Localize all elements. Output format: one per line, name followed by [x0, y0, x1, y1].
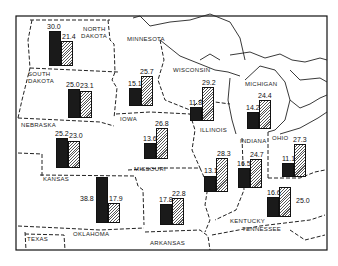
- value-ia-hatched: 26.8: [155, 120, 169, 128]
- value-ne-solid: 25.2: [55, 130, 69, 138]
- label-kansas: KANSAS: [43, 176, 69, 183]
- label-arkansas: ARKANSAS: [150, 240, 185, 247]
- label-michigan: MICHIGAN: [245, 81, 277, 88]
- value-sd-solid: 25.0: [66, 81, 80, 89]
- label-south-dakota: SOUTH: [28, 71, 51, 78]
- value-ok-hatched: 17.9: [109, 195, 123, 203]
- bar-sd-hatched: [80, 91, 92, 118]
- label-oklahoma: OKLAHOMA: [73, 231, 109, 238]
- value-mi-hatched: 24.4: [258, 92, 272, 100]
- label-kentucky: KENTUCKY: [230, 218, 265, 225]
- value-il-hatched: 28.3: [217, 150, 231, 158]
- label-iowa: IOWA: [120, 116, 137, 123]
- label-south-dakota-2: DAKOTA: [28, 78, 54, 85]
- label-north-dakota-2: DAKOTA: [81, 33, 107, 40]
- label-texas: TEXAS: [27, 236, 48, 243]
- label-indiana: INDIANA: [240, 138, 266, 145]
- value-ia-solid: 13.6: [143, 135, 157, 143]
- map: NORTH DAKOTA MINNESOTA SOUTH DAKOTA NEBR…: [0, 0, 338, 266]
- value-ky-solid: 16.6: [267, 189, 281, 197]
- bar-ne-hatched: [68, 141, 80, 168]
- bar-in-solid: [238, 168, 250, 188]
- label-missouri: MISSOURI: [134, 166, 166, 173]
- bar-ia-solid: [144, 143, 156, 159]
- value-mn-hatched: 25.7: [140, 68, 154, 76]
- value-sd-hatched: 23.1: [80, 82, 94, 90]
- value-nd-hatched: 21.4: [62, 33, 76, 41]
- bar-nd-hatched: [61, 41, 73, 66]
- bar-ne-solid: [56, 138, 68, 168]
- bar-nd-solid: [49, 31, 61, 66]
- label-minnesota: MINNESOTA: [127, 36, 165, 43]
- bar-mo-solid: [160, 204, 172, 225]
- bar-mn-solid: [129, 88, 141, 106]
- value-mn-solid: 15.1: [128, 80, 142, 88]
- bar-oh-hatched: [294, 144, 306, 177]
- bar-wi-hatched: [202, 87, 214, 121]
- bar-wi-solid: [190, 107, 202, 121]
- value-nd-solid: 30.0: [47, 23, 61, 31]
- bar-ia-hatched: [156, 128, 168, 159]
- bar-in-hatched: [250, 159, 262, 188]
- label-illinois: ILLINOIS: [200, 127, 227, 134]
- label-north-dakota: NORTH: [83, 26, 106, 33]
- value-in-solid: 16.5: [237, 160, 251, 168]
- bar-ok-hatched: [108, 203, 120, 223]
- value-mo-solid: 17.8: [159, 196, 173, 204]
- value-in-hatched: 24.7: [250, 151, 264, 159]
- bar-oh-solid: [282, 163, 294, 177]
- label-wisconsin: WISCONSIN: [173, 67, 210, 74]
- label-tennessee: TENNESSEE: [242, 226, 281, 233]
- label-ohio: OHIO: [272, 135, 289, 142]
- bar-mn-hatched: [141, 76, 153, 106]
- bar-il-hatched: [216, 158, 228, 192]
- value-mi-solid: 14.2: [246, 104, 260, 112]
- value-wi-solid: 11.8: [189, 99, 202, 107]
- bar-ky-solid: [267, 197, 279, 217]
- value-mo-hatched: 22.8: [172, 190, 186, 198]
- value-il-solid: 13.1: [204, 167, 218, 175]
- value-ne-hatched: 23.0: [69, 132, 83, 140]
- value-ok-solid: 38.8: [80, 195, 94, 203]
- value-oh-hatched: 27.3: [293, 136, 307, 144]
- value-ky-hatched: 25.0: [296, 197, 310, 205]
- label-nebraska: NEBRASKA: [21, 122, 56, 129]
- bar-sd-solid: [68, 89, 80, 118]
- bar-mo-hatched: [172, 198, 184, 225]
- bar-mi-hatched: [259, 100, 271, 129]
- value-wi-hatched: 29.2: [202, 79, 216, 87]
- bar-mi-solid: [247, 112, 259, 129]
- bar-ok-solid: [96, 177, 108, 223]
- bar-il-solid: [204, 176, 216, 192]
- value-oh-solid: 11.1: [282, 155, 295, 163]
